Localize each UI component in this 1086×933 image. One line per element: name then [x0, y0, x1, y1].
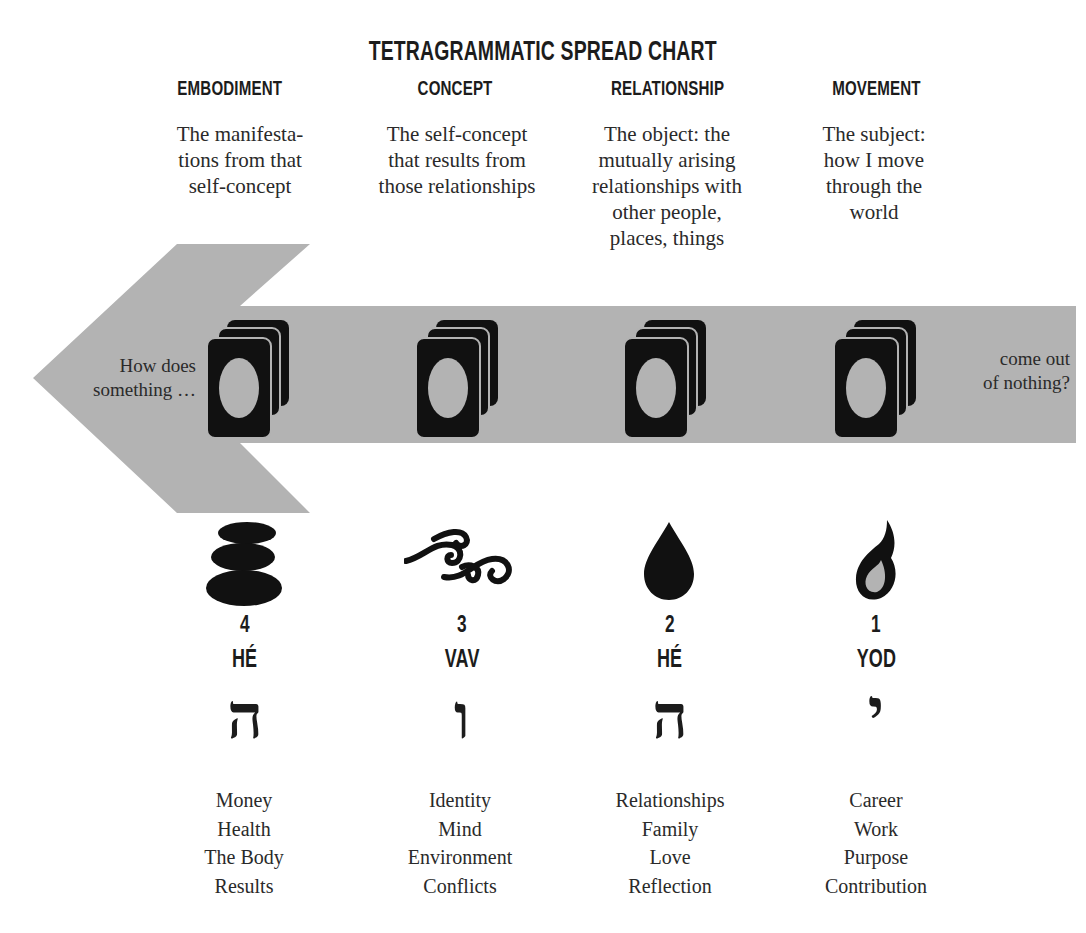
domain-list-relationship: Relationships Family Love Reflection: [570, 786, 770, 900]
letter-name: HÉ: [145, 644, 345, 673]
list-item: Relationships: [570, 786, 770, 815]
letter-name: VAV: [362, 644, 562, 673]
flame-icon: [853, 518, 899, 602]
arrow-right-text: come out of nothing?: [920, 347, 1070, 395]
card-deck-icon[interactable]: [832, 318, 918, 440]
element-number: 4: [145, 610, 345, 638]
domain-list-embodiment: Money Health The Body Results: [144, 786, 344, 900]
number-text: 3: [457, 610, 467, 638]
letter-name-text: HÉ: [232, 644, 257, 673]
stacked-stones-icon: [205, 520, 285, 606]
hebrew-letter-he: ה: [570, 682, 770, 752]
arrow-right-line: of nothing?: [920, 371, 1070, 395]
water-drop-icon: [640, 520, 698, 602]
element-number: 3: [362, 610, 562, 638]
element-number: 2: [570, 610, 770, 638]
list-item: Reflection: [570, 872, 770, 901]
list-item: Career: [776, 786, 976, 815]
element-number: 1: [776, 610, 976, 638]
card-deck-icon[interactable]: [622, 318, 708, 440]
list-item: Love: [570, 843, 770, 872]
arrow-left-text: How does something …: [40, 354, 196, 402]
list-item: Family: [570, 815, 770, 844]
letter-name-text: VAV: [445, 644, 480, 673]
list-item: Purpose: [776, 843, 976, 872]
list-item: Money: [144, 786, 344, 815]
arrow-right-line: come out: [920, 347, 1070, 371]
letter-name: HÉ: [570, 644, 770, 673]
letter-name: YOD: [776, 644, 976, 673]
list-item: Conflicts: [360, 872, 560, 901]
hebrew-letter-he: ה: [145, 682, 345, 752]
number-text: 4: [240, 610, 250, 638]
card-deck-icon[interactable]: [205, 318, 291, 440]
number-text: 2: [665, 610, 675, 638]
letter-name-text: YOD: [856, 644, 895, 673]
card-deck-icon[interactable]: [414, 318, 500, 440]
hebrew-letter-yod: י: [776, 676, 976, 746]
arrow-left-line: How does: [40, 354, 196, 378]
air-swirls-icon: [404, 527, 519, 587]
list-item: Contribution: [776, 872, 976, 901]
arrow-left-line: something …: [40, 378, 196, 402]
list-item: Results: [144, 872, 344, 901]
domain-list-concept: Identity Mind Environment Conflicts: [360, 786, 560, 900]
list-item: Health: [144, 815, 344, 844]
list-item: Identity: [360, 786, 560, 815]
list-item: Work: [776, 815, 976, 844]
domain-list-movement: Career Work Purpose Contribution: [776, 786, 976, 900]
list-item: Environment: [360, 843, 560, 872]
hebrew-letter-vav: ו: [362, 682, 562, 752]
number-text: 1: [871, 610, 881, 638]
list-item: Mind: [360, 815, 560, 844]
list-item: The Body: [144, 843, 344, 872]
letter-name-text: HÉ: [657, 644, 682, 673]
